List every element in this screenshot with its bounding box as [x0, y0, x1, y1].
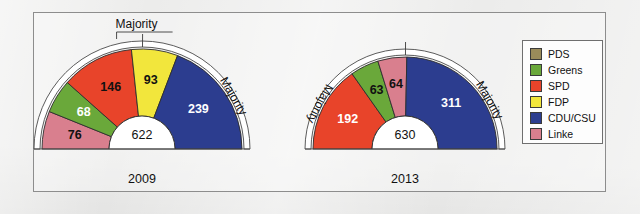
legend-label-cducsu: CDU/CSU: [548, 113, 596, 124]
legend-label-linke: Linke: [548, 129, 573, 140]
majority-label-top: Majority: [116, 17, 158, 31]
seat-wedge-value-greens: 68: [77, 105, 91, 119]
legend-swatch-pds: [530, 48, 542, 60]
seat-diagram-2013: 1926364311630MajorityMajority2013: [304, 42, 506, 186]
legend-item-cducsu[interactable]: CDU/CSU: [530, 110, 602, 126]
total-seats-value: 622: [132, 128, 153, 142]
legend-swatch-linke: [530, 128, 542, 140]
seat-wedge-value-fdp: 93: [144, 73, 158, 87]
legend-item-spd[interactable]: SPD: [530, 78, 602, 94]
legend: PDS Greens SPD FDP CDU/CSU Linke: [522, 40, 603, 144]
legend-item-fdp[interactable]: FDP: [530, 94, 602, 110]
total-seats-value: 630: [395, 128, 416, 142]
legend-swatch-fdp: [530, 96, 542, 108]
legend-item-pds[interactable]: PDS: [530, 46, 602, 62]
legend-label-fdp: FDP: [548, 97, 569, 108]
legend-item-linke[interactable]: Linke: [530, 126, 602, 142]
seat-diagram-2009: 766814693239622MajorityMajority2009: [34, 17, 250, 186]
seat-wedge-value-cdu-csu: 239: [188, 102, 209, 116]
chart-stage: 766814693239622MajorityMajority200919263…: [0, 0, 640, 214]
seat-wedge-value-linke: 64: [389, 77, 403, 91]
year-label-2009: 2009: [128, 172, 156, 186]
legend-label-pds: PDS: [548, 49, 570, 60]
seat-wedge-value-linke: 76: [68, 128, 82, 142]
legend-swatch-spd: [530, 80, 542, 92]
legend-item-greens[interactable]: Greens: [530, 62, 602, 78]
seat-wedge-value-spd: 192: [337, 112, 358, 126]
seat-wedge-value-cdu-csu: 311: [441, 96, 461, 110]
legend-label-greens: Greens: [548, 65, 582, 76]
seat-wedge-value-spd: 146: [100, 80, 121, 94]
legend-swatch-greens: [530, 64, 542, 76]
seat-wedge-value-greens: 63: [370, 83, 384, 97]
legend-swatch-cducsu: [530, 112, 542, 124]
year-label-2013: 2013: [391, 172, 419, 186]
legend-label-spd: SPD: [548, 81, 570, 92]
